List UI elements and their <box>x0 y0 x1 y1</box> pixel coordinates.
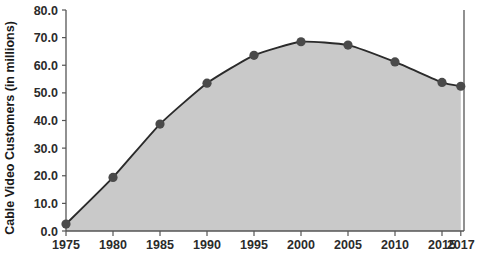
y-axis-tick-labels: 0.010.020.030.040.050.060.070.080.0 <box>34 4 58 239</box>
data-point-marker <box>343 40 352 49</box>
y-axis-tick-label: 40.0 <box>34 114 58 128</box>
y-axis-title: Cable Video Customers (in millions) <box>3 21 17 235</box>
y-axis-tick-label: 80.0 <box>34 4 58 18</box>
y-axis-tick-label: 60.0 <box>34 59 58 73</box>
x-axis-tick-label: 2000 <box>287 238 315 252</box>
data-point-marker <box>456 82 465 91</box>
x-axis-tick-label: 1985 <box>146 238 174 252</box>
x-axis-tick-label: 2010 <box>381 238 409 252</box>
x-axis-tick-label: 1980 <box>99 238 127 252</box>
x-axis-tick-label: 1995 <box>240 238 268 252</box>
y-axis-tick-label: 50.0 <box>34 86 58 100</box>
data-point-marker <box>390 57 399 66</box>
y-axis-tick-label: 70.0 <box>34 31 58 45</box>
y-axis-tick-label: 20.0 <box>34 169 58 183</box>
data-point-marker <box>249 51 258 60</box>
y-axis-tick-label: 30.0 <box>34 142 58 156</box>
y-axis-tick-label: 0.0 <box>41 225 58 239</box>
cable-video-customers-area-chart: 0.010.020.030.040.050.060.070.080.0 1975… <box>0 0 482 256</box>
data-point-marker <box>437 78 446 87</box>
chart-container: 0.010.020.030.040.050.060.070.080.0 1975… <box>0 0 482 256</box>
data-point-marker <box>155 119 164 128</box>
data-point-marker <box>108 173 117 182</box>
x-axis-tick-label: 2017 <box>447 238 475 252</box>
x-axis-tick-label: 2005 <box>334 238 362 252</box>
x-axis-tick-label: 1990 <box>193 238 221 252</box>
data-point-marker <box>296 37 305 46</box>
y-axis-tick-label: 10.0 <box>34 197 58 211</box>
data-point-marker <box>61 219 70 228</box>
data-point-marker <box>202 79 211 88</box>
x-axis-tick-label: 1975 <box>52 238 80 252</box>
